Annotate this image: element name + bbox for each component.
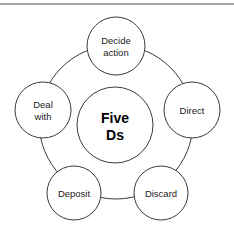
five-ds-diagram: Decide action Direct Discard Deposit Dea…	[0, 0, 234, 237]
node-circle-decide-action[interactable]	[87, 17, 145, 75]
center-label-line1: Five	[101, 110, 129, 126]
node-label-direct: Direct	[180, 105, 205, 116]
node-label-deposit: Deposit	[58, 188, 91, 199]
node-label-discard: Discard	[145, 188, 177, 199]
node-decide-action[interactable]: Decide action	[87, 17, 145, 75]
node-direct[interactable]: Direct	[164, 82, 220, 138]
node-label-deal-with-line2: with	[34, 111, 52, 122]
node-circle-deal-with[interactable]	[15, 82, 71, 138]
node-label-decide-action-line2: action	[103, 47, 128, 58]
node-deal-with[interactable]: Deal with	[15, 82, 71, 138]
node-label-decide-action-line1: Decide	[101, 35, 131, 46]
node-deposit[interactable]: Deposit	[47, 166, 101, 220]
node-label-deal-with-line1: Deal	[33, 99, 53, 110]
center-label-line2: Ds	[106, 127, 124, 143]
node-discard[interactable]: Discard	[134, 166, 188, 220]
center-node-five-ds[interactable]: Five Ds	[77, 87, 153, 163]
diagram-canvas: Decide action Direct Discard Deposit Dea…	[0, 0, 234, 237]
